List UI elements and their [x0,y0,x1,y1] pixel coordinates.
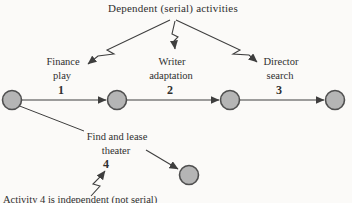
network-diagram: Dependent (serial) activities Finance pl… [0,0,352,203]
activity-3-name-line2: search [267,71,294,82]
activity-2-name-line2: adaptation [149,71,193,82]
node-circle-2 [108,91,127,110]
activity-2-number: 2 [167,84,173,96]
arrow-activity-4 [146,150,178,169]
zigzag-arrow-icon-bottom [91,171,105,196]
node-circle-1 [3,91,22,110]
diagram-title: Dependent (serial) activities [108,3,238,14]
activity-4-name-line1: Find and lease [87,132,148,143]
activity-3-number: 3 [276,84,282,96]
activity-1-name-line1: Finance [46,57,79,68]
node-circle-4 [326,91,345,110]
activity-4-number: 4 [103,158,109,170]
diagram-canvas [0,0,352,203]
activity-3-name-line1: Director [264,57,299,68]
activity-1-number: 1 [58,84,64,96]
activity-4-name-line2: theater [102,146,131,157]
node-circle-5 [180,166,199,185]
activity-2-name-line1: Writer [159,57,186,68]
leader-line-activity-4 [17,105,84,131]
bottom-caption: Activity 4 is independent (not serial) [3,195,157,203]
zigzag-arrow-icon-right [176,20,257,62]
activity-1-name-line2: play [53,71,71,82]
node-circle-3 [221,91,240,110]
zigzag-arrow-icon-middle [172,21,178,49]
